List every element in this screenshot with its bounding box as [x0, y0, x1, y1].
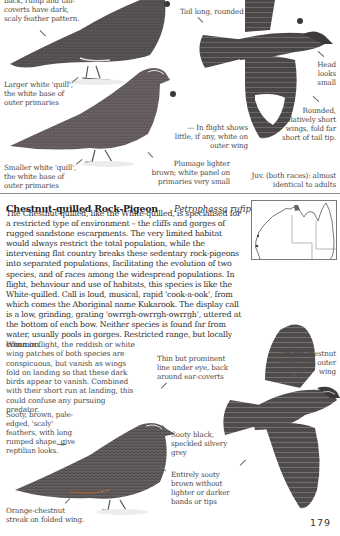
caption-rounded-wings: Rounded, relatively short wings, fold fa… — [272, 106, 336, 142]
caption-sooty-black: Sooty black, speckled silvery grey — [171, 430, 231, 457]
caption-back-rump: back, rump and tail-coverts have dark, s… — [4, 0, 80, 23]
caption-bright-chestnut: Bright chestnut across the outer wing — [268, 349, 336, 376]
distribution-map — [251, 200, 337, 260]
caption-orange-chestnut: Orange-chestnut streak on folded wing. — [6, 506, 86, 524]
caption-juvenile: Juv. (both races): almost identical to a… — [248, 171, 336, 189]
caption-sooty-brown: Sooty, brown, pale-edged, 'scaly' feathe… — [6, 410, 76, 455]
section-divider — [0, 193, 340, 194]
caption-larger-white-quill: Larger white 'quill', the white base of … — [4, 80, 76, 107]
range-dot-marker — [297, 18, 303, 24]
caption-smaller-white-quill: Smaller white 'quill', the white base of… — [4, 163, 84, 190]
range-dot-marker — [164, 1, 170, 7]
caption-head-small: Head looks small — [300, 60, 336, 87]
page-number: 179 — [310, 517, 331, 528]
caption-tail-long: Tail long, rounded — [180, 7, 260, 16]
flight-note: When in flight, the reddish or white win… — [6, 340, 136, 414]
leader-line — [161, 382, 167, 388]
caption-entirely-sooty: Entirely sooty brown without lighter or … — [171, 470, 243, 506]
white-quilled-perched-illustration-2 — [0, 62, 175, 172]
caption-thin-line: Thin but prominent line under eye, back … — [157, 354, 229, 381]
caption-in-flight: — In flight shows little, if any, white … — [172, 123, 248, 150]
leader-line — [58, 444, 66, 445]
map-outline-icon — [252, 201, 336, 259]
caption-plumage-lighter: Plumage lighter brown; white panel on pr… — [148, 159, 230, 186]
